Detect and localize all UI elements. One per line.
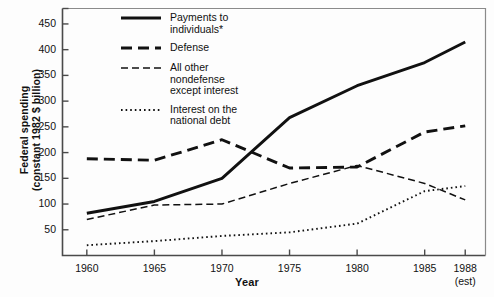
legend-label: Defense <box>170 41 209 54</box>
legend-label: All other nondefense except interest <box>170 61 238 97</box>
x-axis-title: Year <box>0 276 494 288</box>
y-tick-label: 100 <box>22 197 56 209</box>
y-tick-label: 200 <box>22 146 56 158</box>
y-tick-label: 350 <box>22 68 56 80</box>
series-line <box>87 186 465 245</box>
legend-swatch-short-dash-icon <box>121 61 161 75</box>
y-tick-label: 250 <box>22 120 56 132</box>
series-line <box>87 165 465 219</box>
chart-figure: Federal spending (constant 1982 $ billio… <box>0 0 494 297</box>
legend-label: Payments to individuals* <box>170 11 228 35</box>
legend-item: Defense <box>121 41 238 55</box>
x-tick-label: 1988 <box>435 262 494 274</box>
chart-legend: Payments to individuals*DefenseAll other… <box>121 11 238 133</box>
legend-swatch-dotted-icon <box>121 103 161 117</box>
legend-swatch-long-dash-icon <box>121 41 161 55</box>
legend-swatch-solid-icon <box>121 11 161 25</box>
legend-label: Interest on the national debt <box>170 103 237 127</box>
y-tick-label: 50 <box>22 223 56 235</box>
legend-item: Interest on the national debt <box>121 103 238 127</box>
x-tick-sublabel: (est) <box>435 275 494 287</box>
x-tick-label: 1980 <box>327 262 387 274</box>
x-tick-label: 1975 <box>260 262 320 274</box>
plot-area <box>0 0 494 297</box>
legend-item: Payments to individuals* <box>121 11 238 35</box>
y-tick-label: 300 <box>22 94 56 106</box>
x-tick-label: 1960 <box>57 262 117 274</box>
y-tick-label: 150 <box>22 171 56 183</box>
y-tick-label: 450 <box>22 17 56 29</box>
y-tick-label: 400 <box>22 43 56 55</box>
x-tick-label: 1965 <box>124 262 184 274</box>
legend-item: All other nondefense except interest <box>121 61 238 97</box>
x-tick-label: 1970 <box>192 262 252 274</box>
